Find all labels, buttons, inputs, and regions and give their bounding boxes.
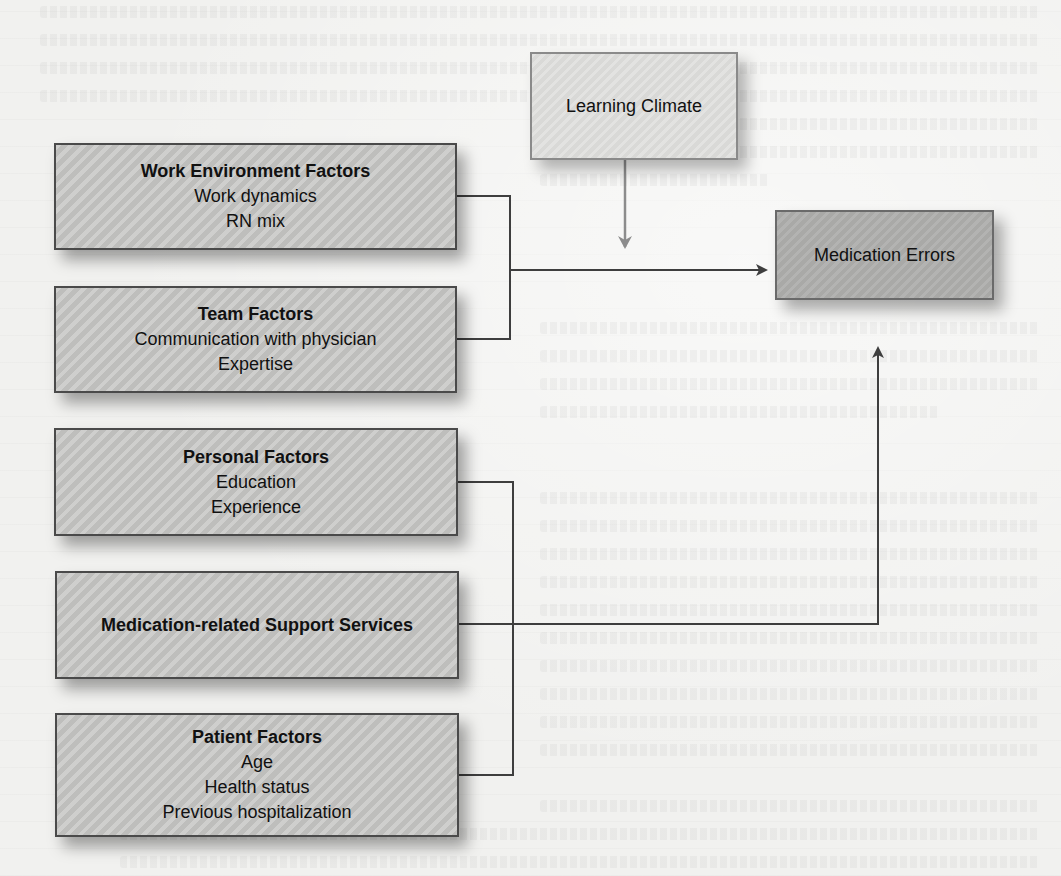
box-label: Medication Errors: [814, 243, 955, 268]
box-title: Team Factors: [198, 302, 314, 327]
personal-factors-box: Personal Factors Education Experience: [54, 428, 458, 536]
upper-bracket: [457, 196, 766, 339]
team-factors-box: Team Factors Communication with physicia…: [54, 286, 457, 393]
box-item: Age: [241, 750, 273, 775]
box-item: Work dynamics: [194, 184, 317, 209]
box-title: Patient Factors: [192, 725, 322, 750]
box-title: Medication-related Support Services: [101, 613, 413, 638]
box-item: Communication with physician: [134, 327, 376, 352]
learning-climate-box: Learning Climate: [530, 52, 738, 160]
box-item: Previous hospitalization: [162, 800, 351, 825]
box-title: Work Environment Factors: [141, 159, 371, 184]
box-item: Health status: [204, 775, 309, 800]
box-label: Learning Climate: [566, 94, 702, 119]
patient-factors-box: Patient Factors Age Health status Previo…: [55, 713, 459, 837]
box-item: Education: [216, 470, 296, 495]
box-title: Personal Factors: [183, 445, 329, 470]
diagram-canvas: Work Environment Factors Work dynamics R…: [0, 0, 1061, 876]
box-item: Expertise: [218, 352, 293, 377]
medication-support-services-box: Medication-related Support Services: [55, 571, 459, 679]
medication-errors-box: Medication Errors: [775, 210, 994, 300]
box-item: RN mix: [226, 209, 285, 234]
box-item: Experience: [211, 495, 301, 520]
work-environment-factors-box: Work Environment Factors Work dynamics R…: [54, 143, 457, 250]
